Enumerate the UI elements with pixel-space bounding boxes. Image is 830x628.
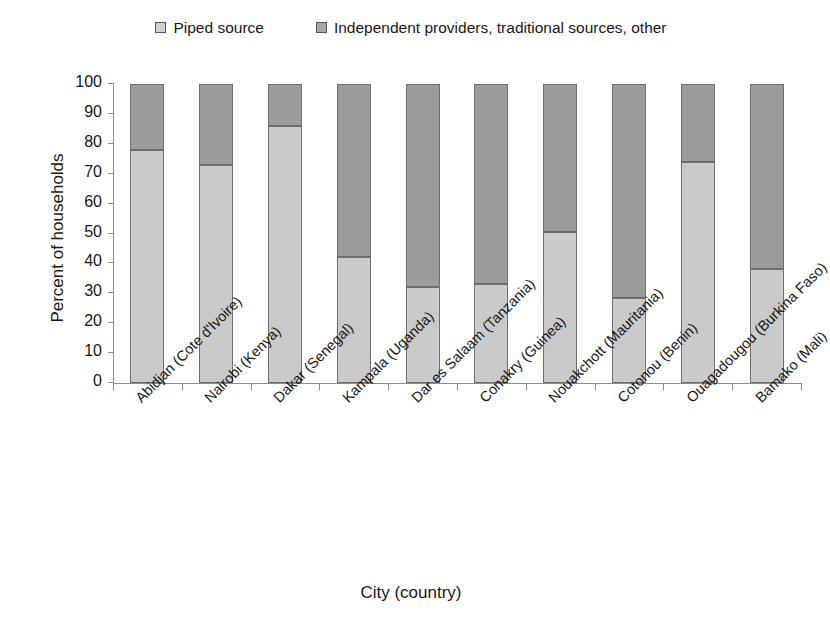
x-category-label: Bamako (Mali) [753,329,829,405]
x-axis-title: City (country) [0,583,822,603]
x-category-label: Nouakchott (Mauritania) [546,286,666,406]
x-category-label: Dar es Salaam (Tanzania) [409,276,538,405]
x-category-label: Ouagadougou (Burkina Faso) [684,260,829,405]
